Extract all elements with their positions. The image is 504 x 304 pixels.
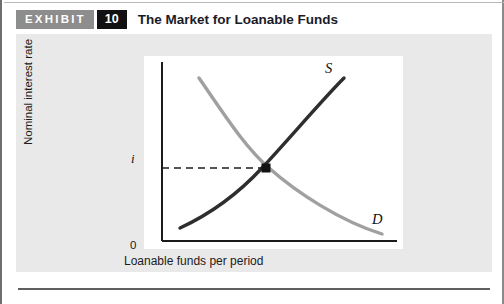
top-divider bbox=[4, 2, 504, 3]
equilibrium-point bbox=[262, 164, 271, 173]
demand-curve bbox=[199, 78, 382, 234]
origin-label: 0 bbox=[130, 239, 136, 251]
supply-demand-chart bbox=[144, 56, 403, 249]
plot-area: i 0 S D bbox=[144, 56, 403, 249]
figure-panel: Nominal interest rate i 0 S D Loanable bbox=[16, 34, 492, 272]
exhibit-number-badge: 10 bbox=[97, 10, 127, 29]
equilibrium-rate-label: i bbox=[131, 151, 135, 167]
x-axis-title: Loanable funds per period bbox=[124, 254, 263, 268]
exhibit-frame: EXHIBIT 10 The Market for Loanable Funds… bbox=[0, 0, 504, 304]
exhibit-header: EXHIBIT 10 The Market for Loanable Funds bbox=[16, 9, 338, 29]
exhibit-title: The Market for Loanable Funds bbox=[138, 12, 338, 27]
bottom-divider bbox=[18, 288, 490, 290]
y-axis-title: Nominal interest rate bbox=[22, 17, 34, 167]
